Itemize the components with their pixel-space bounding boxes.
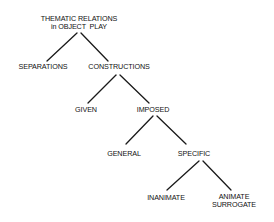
tree-diagram: THEMATIC RELATIONS in OBJECT PLAY SEPARA… [0,0,274,222]
node-inanimate: INANIMATE [147,194,185,202]
edge-constructions-imposed [120,75,149,103]
edge-root-constructions [81,33,108,61]
node-root: THEMATIC RELATIONS in OBJECT PLAY [41,15,118,30]
node-root-line2: in OBJECT PLAY [41,23,118,31]
edge-imposed-general [126,116,153,144]
edge-specific-animate-surrogate [203,161,231,190]
node-given: GIVEN [75,106,97,114]
node-specific: SPECIFIC [178,150,210,158]
node-animate-surrogate: ANIMATE SURROGATE [212,193,256,208]
edge-specific-inanimate [167,161,199,190]
edge-imposed-specific [157,116,186,144]
node-separations: SEPARATIONS [19,63,68,71]
node-imposed: IMPOSED [137,106,169,114]
edge-root-separations [47,33,77,61]
node-constructions: CONSTRUCTIONS [88,63,149,71]
node-general: GENERAL [107,150,141,158]
node-animate-surrogate-line2: SURROGATE [212,201,256,209]
edge-constructions-given [88,75,116,103]
